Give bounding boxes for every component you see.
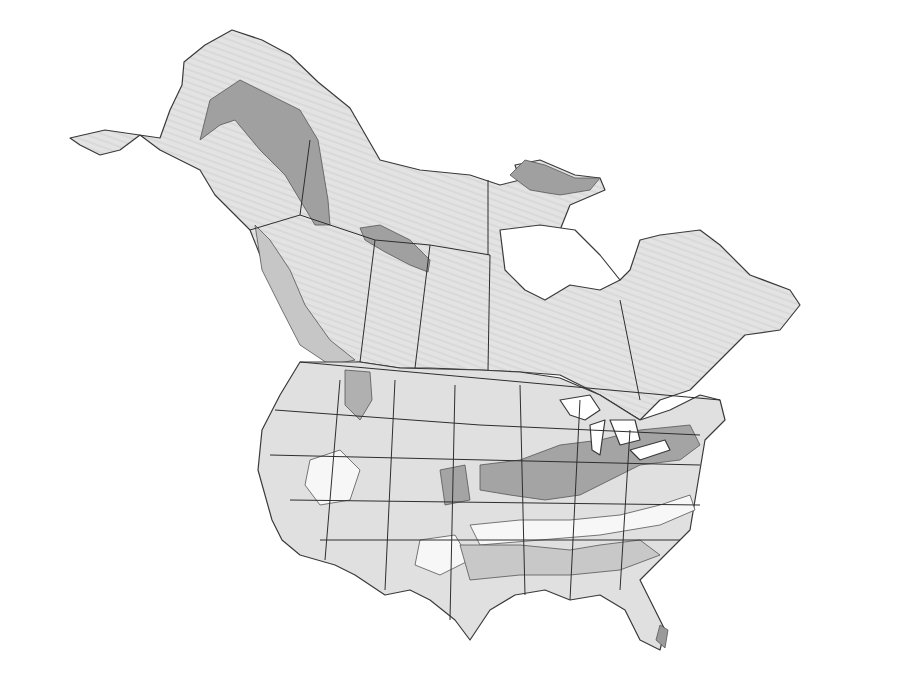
- canada-alaska-landmass: [70, 30, 800, 420]
- us-dark-zone-rockies: [440, 465, 470, 505]
- north-america-zone-map: [0, 0, 897, 699]
